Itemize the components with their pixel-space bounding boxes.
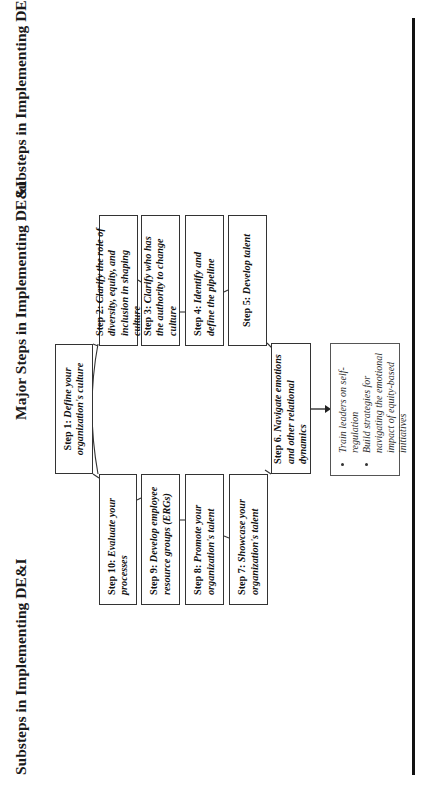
step-7-label: Step 7: — [236, 565, 247, 595]
step-1-label: Step 1: — [62, 420, 73, 450]
step-7-box: Step 7: Showcase your organization's tal… — [229, 474, 268, 605]
step-2-box: Step 2: Clarify the role of diversity, e… — [99, 215, 138, 346]
substep-item: Build strategies for navigating the emot… — [361, 352, 409, 453]
step-9-label: Step 9: — [148, 565, 159, 595]
step-5-text: Develop talent — [241, 234, 252, 294]
step-4-box: Step 4: Identify and define the pipeline — [185, 215, 224, 346]
step-6-substeps-box: Train leaders on self-regulation Build s… — [330, 343, 400, 476]
step-3-label: Step 3: — [142, 306, 153, 336]
step-1-box: Step 1: Define your organization's cultu… — [55, 344, 93, 474]
step-5-label: Step 5: — [241, 297, 252, 327]
step-8-label: Step 8: — [192, 565, 203, 595]
step-5-box: Step 5: Develop talent — [228, 215, 267, 346]
step-2-label: Step 2: — [94, 306, 105, 336]
step-8-box: Step 8: Promote your organization's tale… — [185, 474, 224, 605]
divider-line — [412, 18, 415, 775]
step-6-label: Step 6. — [272, 435, 283, 464]
step-10-label: Step 10: — [106, 560, 117, 595]
step-9-box: Step 9: Develop employee resource groups… — [141, 474, 180, 605]
step-10-box: Step 10: Evaluate your processes — [99, 474, 137, 605]
step-6-box: Step 6. Navigate emotions and other rela… — [271, 343, 311, 474]
step-6-substeps-list: Train leaders on self-regulation Build s… — [337, 352, 409, 469]
step-3-box: Step 3: Clarify who has the authority to… — [141, 215, 180, 346]
substep-item: Train leaders on self-regulation — [337, 352, 361, 453]
step-4-label: Step 4: — [192, 306, 203, 336]
diagram-canvas: Substeps in Implementing DE&I Major Step… — [0, 0, 422, 792]
